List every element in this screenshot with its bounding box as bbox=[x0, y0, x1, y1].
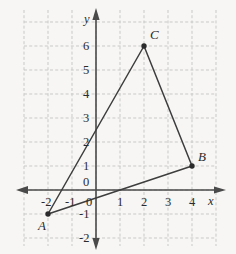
y-tick-label-1: 1 bbox=[83, 160, 89, 173]
x-axis-label: x bbox=[208, 195, 214, 208]
vertex-label-b: B bbox=[198, 150, 206, 163]
grid-lines bbox=[24, 10, 216, 246]
vertex-point-b bbox=[189, 163, 194, 168]
x-tick-label-3: 3 bbox=[165, 196, 171, 209]
y-tick-label-0: 0 bbox=[83, 176, 89, 189]
y-tick-label-5: 5 bbox=[83, 64, 89, 77]
y-axis-label: y bbox=[84, 13, 90, 26]
coordinate-plane-figure: -2 -1 0 1 2 3 4 6 5 4 3 2 1 0 -1 -2 x y … bbox=[0, 0, 236, 254]
plot-canvas bbox=[0, 0, 236, 254]
vertex-point-c bbox=[141, 43, 146, 48]
vertex-label-c: C bbox=[150, 28, 159, 41]
y-tick-label-3: 3 bbox=[83, 112, 89, 125]
x-tick-label-1: 1 bbox=[117, 196, 123, 209]
x-tick-label-2: 2 bbox=[141, 196, 147, 209]
y-tick-label-2: 2 bbox=[83, 136, 89, 149]
y-tick-label--2: -2 bbox=[79, 232, 89, 245]
x-tick-label--2: -2 bbox=[41, 196, 51, 209]
vertex-point-a bbox=[45, 211, 50, 216]
y-tick-label-6: 6 bbox=[83, 40, 89, 53]
vertex-label-a: A bbox=[38, 219, 46, 232]
y-tick-label-4: 4 bbox=[83, 88, 89, 101]
y-tick-label--1: -1 bbox=[79, 208, 89, 221]
x-tick-label--1: -1 bbox=[65, 196, 75, 209]
x-tick-label-4: 4 bbox=[189, 196, 195, 209]
